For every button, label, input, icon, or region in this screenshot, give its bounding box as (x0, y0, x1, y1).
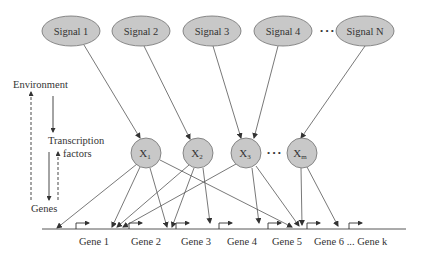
promoter-arrow-icon (76, 223, 89, 229)
tf-node-x2: X2 (183, 138, 213, 168)
promoter-arrow-icon (268, 223, 281, 229)
promoter-arrow-icon (129, 223, 142, 229)
environment-label: Environment (13, 79, 68, 90)
edge-xm-gene (301, 168, 302, 225)
promoter-arrow-icon (176, 223, 189, 229)
tf-ellipsis-dots: • • • (267, 148, 281, 158)
factors-label: factors (63, 148, 92, 159)
promoter-arrow-icon (349, 223, 362, 229)
signal-ellipsis-dots: • • • (320, 26, 334, 36)
tf-label: X (191, 147, 199, 159)
gene-label: Gene 5 (272, 236, 302, 247)
signal-label: Signal 4 (266, 26, 301, 37)
hierarchy-legend: Environment Transcription factors Genes (13, 79, 105, 214)
signal-node-2: Signal 2 (112, 16, 170, 46)
edge-x2-gene (203, 168, 210, 223)
edge-x1-gene (57, 164, 137, 228)
signal-label: Signal N (346, 26, 383, 37)
gene-labels: Gene 1 Gene 2 Gene 3 Gene 4 Gene 5 Gene … (79, 236, 388, 247)
signal-label: Signal 1 (54, 26, 89, 37)
gene-label: Gene 3 (181, 236, 211, 247)
tf-gene-edges (57, 160, 338, 228)
promoter-arrows (76, 223, 362, 229)
transcription-factor-nodes: X1 X2 X3 • • • Xm (131, 138, 317, 168)
tf-subscript: 2 (199, 153, 203, 161)
edge-signalN-xm (301, 46, 365, 138)
promoter-arrow-icon (219, 223, 232, 229)
edge-signal1-x1 (84, 45, 140, 138)
edge-x1-gene (112, 167, 140, 227)
signal-node-4: Signal 4 (254, 16, 312, 46)
edge-xm-gene (307, 167, 338, 226)
edge-x3-gene (252, 168, 259, 223)
gene-label: Gene 1 (79, 236, 109, 247)
tf-label: X (239, 147, 247, 159)
gene-label: Gene 6 ... Gene k (314, 236, 388, 247)
signal-node-1: Signal 1 (42, 16, 100, 46)
tf-subscript: 1 (147, 153, 151, 161)
signal-label: Signal 3 (195, 26, 230, 37)
signal-node-3: Signal 3 (183, 16, 241, 46)
edge-x3-gene (256, 166, 299, 226)
tf-subscript: 3 (247, 153, 251, 161)
tf-subscript: m (301, 153, 307, 161)
tf-node-xm: Xm (287, 138, 317, 168)
signal-edges (84, 45, 365, 139)
gene-regulatory-network-diagram: Signal 1 Signal 2 Signal 3 Signal 4 • • … (0, 0, 426, 260)
signal-node-N: Signal N (336, 16, 394, 46)
edge-signal3-x3 (213, 46, 241, 138)
edge-x1-gene (150, 168, 167, 227)
promoter-arrow-icon (307, 223, 320, 229)
tf-node-x3: X3 (231, 138, 261, 168)
signal-label: Signal 2 (124, 26, 159, 37)
gene-label: Gene 2 (131, 236, 161, 247)
edge-x1-gene (160, 160, 292, 227)
tf-label: X (139, 147, 147, 159)
edge-signal4-x3 (254, 46, 278, 138)
tf-node-x1: X1 (131, 138, 161, 168)
genes-label: Genes (31, 203, 57, 214)
tf-label: X (293, 147, 301, 159)
transcription-label: Transcription (48, 135, 105, 146)
signal-nodes: Signal 1 Signal 2 Signal 3 Signal 4 • • … (42, 16, 394, 46)
edge-signal2-x2 (144, 46, 190, 139)
gene-label: Gene 4 (227, 236, 258, 247)
